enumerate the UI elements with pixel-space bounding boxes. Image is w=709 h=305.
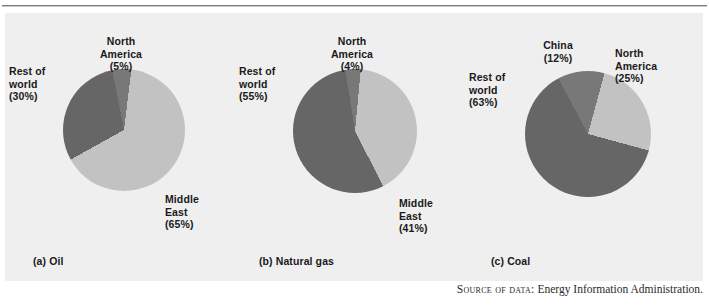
slice-label-line1: North (311, 35, 393, 48)
slice-label-line2: America (81, 48, 161, 61)
slice-label-percent: (5%) (81, 60, 161, 73)
top-horizontal-rule (2, 5, 707, 7)
slice-label-line2: East (165, 206, 235, 219)
slice-label-line1: Middle (399, 197, 469, 210)
chart-caption-coal: (c) Coal (491, 255, 530, 267)
pie-chart-coal: China (12%) North America (25%) Rest of … (469, 13, 703, 281)
slice-label-north-america: North America (5%) (81, 35, 161, 73)
chart-caption-oil: (a) Oil (33, 255, 63, 267)
figure-root: North America (5%) Rest of world (30%) M… (0, 0, 709, 305)
slice-label-percent: (41%) (399, 222, 469, 235)
pie-graphic-oil (63, 69, 185, 191)
slice-label-line2: America (311, 48, 393, 61)
slice-label-line1: Rest of (9, 65, 75, 78)
slice-label-line1: North (81, 35, 161, 48)
slice-label-line2: East (399, 210, 469, 223)
pie-chart-oil: North America (5%) Rest of world (30%) M… (5, 13, 237, 281)
slice-label-line1: Rest of (469, 71, 535, 84)
slice-label-line1: Rest of (239, 65, 305, 78)
figure-panel: North America (5%) Rest of world (30%) M… (5, 13, 703, 281)
slice-label-line2: America (615, 60, 697, 73)
slice-label-line2: world (9, 78, 75, 91)
slice-label-percent: (12%) (525, 52, 591, 65)
slice-label-line2: world (469, 84, 535, 97)
slice-label-middle-east: Middle East (65%) (165, 193, 235, 231)
slice-label-line1: China (525, 39, 591, 52)
slice-label-line1: Middle (165, 193, 235, 206)
pie-graphic-natural-gas (293, 69, 417, 193)
slice-label-percent: (65%) (165, 218, 235, 231)
pie-chart-natural-gas: North America (4%) Rest of world (55%) M… (237, 13, 469, 281)
slice-label-percent: (25%) (615, 72, 697, 85)
slice-label-north-america: North America (25%) (615, 47, 697, 85)
slice-label-line2: world (239, 78, 305, 91)
slice-label-percent: (55%) (239, 90, 305, 103)
slice-label-percent: (63%) (469, 96, 535, 109)
slice-label-china: China (12%) (525, 39, 591, 64)
slice-label-middle-east: Middle East (41%) (399, 197, 469, 235)
source-prefix: Source of data: (457, 283, 535, 295)
slice-label-north-america: North America (4%) (311, 35, 393, 73)
slice-label-rest-of-world: Rest of world (55%) (239, 65, 305, 103)
pie-graphic-coal (525, 71, 651, 197)
slice-label-rest-of-world: Rest of world (63%) (469, 71, 535, 109)
slice-label-percent: (30%) (9, 90, 75, 103)
source-text: Energy Information Administration. (537, 283, 703, 295)
slice-label-percent: (4%) (311, 60, 393, 73)
chart-caption-natural-gas: (b) Natural gas (259, 255, 334, 267)
slice-label-rest-of-world: Rest of world (30%) (9, 65, 75, 103)
slice-label-line1: North (615, 47, 697, 60)
source-of-data-line: Source of data: Energy Information Admin… (457, 283, 703, 295)
